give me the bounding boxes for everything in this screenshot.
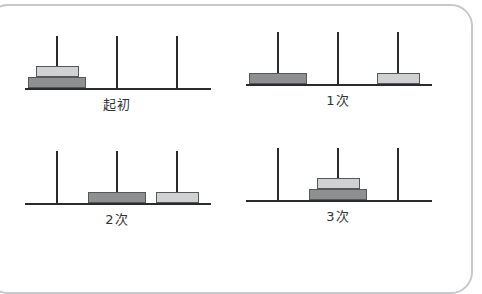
peg-1 [56,151,58,203]
hanoi-panel-3: 3次 [243,140,458,252]
base-line [246,84,432,86]
base-line [25,203,211,205]
hanoi-stage-1 [243,24,433,86]
hanoi-panel-1: 1次 [243,24,458,136]
panel-caption-1: 1次 [243,90,433,109]
panel-caption-0: 起初 [22,94,212,113]
disk-large [88,192,146,203]
base-line [25,88,211,90]
base-line [246,200,432,202]
disk-large [249,73,307,84]
hanoi-stage-0 [22,28,212,90]
peg-3 [176,36,178,88]
panel-caption-3: 3次 [243,206,433,225]
hanoi-stage-3 [243,140,433,202]
hanoi-panel-2: 2次 [22,143,237,255]
peg-2 [116,36,118,88]
hanoi-stage-2 [22,143,212,205]
disk-small [317,178,360,189]
peg-1 [277,148,279,200]
disk-large [28,77,86,88]
panel-caption-2: 2次 [22,209,212,228]
disk-small [377,73,420,84]
disk-small [36,66,79,77]
hanoi-panel-0: 起初 [22,28,237,140]
disk-small [156,192,199,203]
peg-3 [397,148,399,200]
peg-2 [337,32,339,84]
disk-large [309,189,367,200]
